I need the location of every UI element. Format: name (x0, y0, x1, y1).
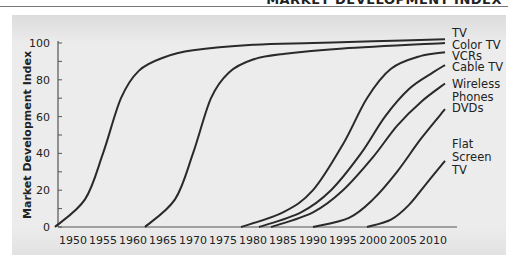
x-tick-label: 1995 (329, 234, 357, 247)
series-label-wireless-phones: Wireless (452, 77, 500, 91)
y-axis-label: Market Development Index (21, 51, 34, 219)
x-tick-label: 1970 (179, 234, 207, 247)
y-tick-label: 20 (36, 184, 50, 197)
y-tick-label: 40 (36, 147, 50, 160)
x-tick-label: 1975 (209, 234, 237, 247)
x-tick-label: 2005 (389, 234, 417, 247)
series-line-cable-tv (259, 65, 445, 227)
series-label-dvds: DVDs (452, 101, 483, 115)
series-label-flat-screen-tv: Flat (452, 137, 474, 151)
series-label-flat-screen-tv: Screen (452, 150, 492, 164)
series-line-color-tv (145, 43, 445, 227)
y-tick-label: 100 (29, 37, 50, 50)
series-label-cable-tv: Cable TV (452, 60, 503, 74)
x-tick-label: 1965 (149, 234, 177, 247)
x-tick-label: 1955 (89, 234, 117, 247)
x-tick-label: 1950 (59, 234, 87, 247)
y-tick-label: 60 (36, 111, 50, 124)
x-tick-label: 1960 (119, 234, 147, 247)
series-line-vcrs (241, 52, 445, 227)
y-tick-label: 80 (36, 74, 50, 87)
market-development-chart: 0204060801001950195519601965197019751980… (0, 0, 516, 270)
series-line-tv (55, 39, 445, 227)
series-label-flat-screen-tv: TV (451, 163, 467, 177)
x-tick-label: 2000 (359, 234, 387, 247)
x-tick-label: 1985 (269, 234, 297, 247)
x-tick-label: 2010 (419, 234, 447, 247)
x-tick-label: 1990 (299, 234, 327, 247)
x-tick-label: 1980 (239, 234, 267, 247)
y-tick-label: 0 (43, 221, 50, 234)
